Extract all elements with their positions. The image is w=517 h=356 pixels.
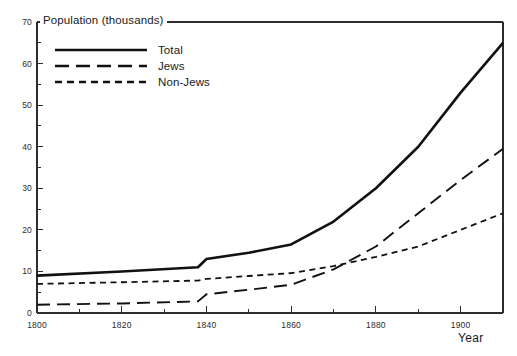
legend-swatch-long-dash: [54, 58, 148, 74]
y-tick-label: 40: [8, 142, 32, 152]
chart-title: Population (thousands): [40, 14, 167, 26]
y-tick-label: 0: [8, 308, 32, 318]
y-tick-label: 10: [8, 266, 32, 276]
y-tick-label: 70: [8, 17, 32, 27]
legend-swatch-solid: [54, 42, 148, 58]
legend-swatch-short-dash: [54, 74, 148, 90]
x-axis-ticks: [37, 306, 503, 313]
legend-label-non-jews: Non-Jews: [158, 74, 210, 90]
y-tick-label: 30: [8, 183, 32, 193]
y-tick-label: 20: [8, 225, 32, 235]
y-axis-ticks: [37, 22, 43, 313]
x-tick-label: 1840: [186, 320, 226, 330]
x-axis-title: Year: [458, 331, 483, 345]
x-tick-label: 1800: [17, 320, 57, 330]
x-tick-label: 1880: [356, 320, 396, 330]
legend-label-total: Total: [158, 42, 183, 58]
legend-label-jews: Jews: [158, 58, 185, 74]
population-chart-figure: Population (thousands) 010203040506070 1…: [0, 0, 517, 356]
x-tick-label: 1820: [102, 320, 142, 330]
y-tick-label: 50: [8, 100, 32, 110]
series-line-jews: [37, 149, 503, 305]
x-tick-label: 1900: [441, 320, 481, 330]
x-tick-label: 1860: [271, 320, 311, 330]
y-tick-label: 60: [8, 59, 32, 69]
